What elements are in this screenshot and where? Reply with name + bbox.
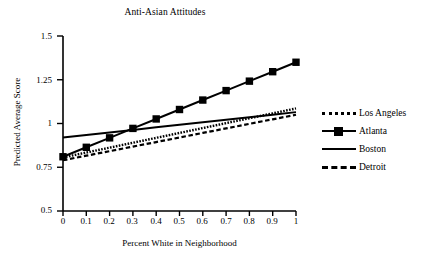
dotted-line-key — [322, 106, 356, 120]
data-point-marker — [176, 106, 183, 113]
data-point-marker — [292, 59, 299, 66]
legend-label: Atlanta — [356, 126, 387, 136]
legend-label: Boston — [356, 144, 386, 154]
chart-legend: Los Angeles Atlanta Boston Detroit — [322, 104, 422, 176]
solid-line-square-marker-key — [322, 124, 356, 138]
data-point-marker — [153, 115, 160, 122]
data-point-marker — [222, 87, 229, 94]
data-series-layer — [59, 59, 299, 161]
y-axis-ticks — [57, 36, 63, 211]
series-line-boston — [63, 112, 296, 137]
data-point-marker — [199, 96, 206, 103]
data-point-marker — [269, 68, 276, 75]
solid-line-key — [322, 142, 356, 156]
legend-label: Los Angeles — [356, 108, 406, 118]
data-point-marker — [83, 144, 90, 151]
dashed-line-key — [322, 160, 356, 174]
legend-label: Detroit — [356, 162, 386, 172]
legend-item-los-angeles: Los Angeles — [322, 104, 422, 122]
data-point-marker — [106, 134, 113, 141]
data-point-marker — [246, 77, 253, 84]
legend-item-boston: Boston — [322, 140, 422, 158]
legend-item-atlanta: Atlanta — [322, 122, 422, 140]
legend-item-detroit: Detroit — [322, 158, 422, 176]
series-line-detroit — [63, 115, 296, 161]
chart-figure: Anti-Asian Attitudes Predicted Average S… — [0, 0, 422, 267]
square-marker-icon — [334, 127, 343, 136]
